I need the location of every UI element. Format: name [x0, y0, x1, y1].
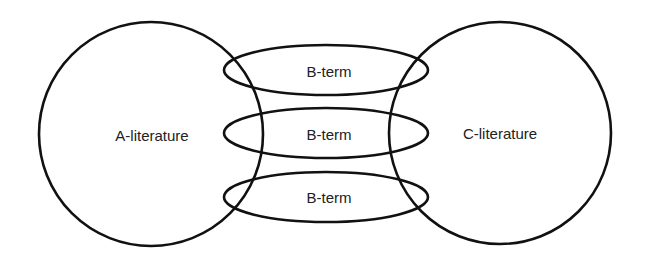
c-literature-label: C-literature	[463, 126, 537, 141]
abc-diagram: A-literature C-literature B-term B-term …	[0, 0, 645, 257]
b-term-label-1: B-term	[307, 64, 352, 79]
b-term-label-2: B-term	[307, 127, 352, 142]
a-literature-label: A-literature	[115, 128, 188, 143]
b-term-label-3: B-term	[307, 190, 352, 205]
